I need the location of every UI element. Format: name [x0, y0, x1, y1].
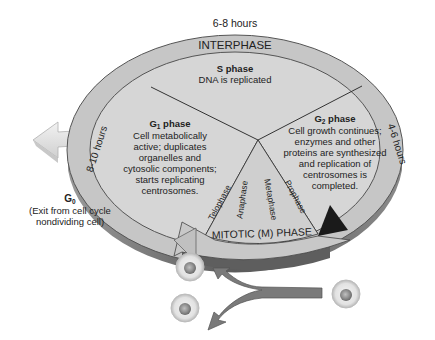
interphase-label: INTERPHASE [198, 39, 272, 51]
svg-text:starts replicating: starts replicating [135, 174, 204, 185]
daughter-cell-bottom [171, 294, 199, 322]
g2-phase-title: G2 phase [314, 113, 355, 125]
svg-text:organelles and: organelles and [139, 152, 201, 163]
svg-text:Cell growth continues;: Cell growth continues; [288, 125, 381, 136]
svg-text:completed.: completed. [312, 180, 358, 191]
daughter-cell-top [176, 253, 204, 281]
svg-text:cytosolic components;: cytosolic components; [123, 163, 216, 174]
g0-title: G0 [64, 193, 76, 205]
g0-desc-line2: nondividing cell) [36, 216, 104, 227]
parent-cell [332, 280, 360, 308]
s-phase-duration: 6-8 hours [213, 17, 257, 29]
svg-text:active; duplicates: active; duplicates [134, 141, 207, 152]
svg-text:Cell metabolically: Cell metabolically [133, 130, 207, 141]
svg-text:centrosomes.: centrosomes. [141, 185, 198, 196]
s-phase-title: S phase [217, 63, 253, 74]
svg-text:enzymes and other: enzymes and other [295, 136, 376, 147]
s-phase-desc: DNA is replicated [199, 74, 272, 85]
g0-desc-line1: (Exit from cell cycle [29, 205, 111, 216]
svg-text:proteins are synthesized: proteins are synthesized [284, 147, 387, 158]
g1-phase-title: G1 phase [149, 118, 190, 130]
cell-division-arrows [208, 268, 322, 330]
cell-cycle-diagram: 6-8 hours INTERPHASE S phase DNA is repl… [0, 0, 435, 340]
svg-text:centrosomes is: centrosomes is [303, 169, 367, 180]
svg-text:and replication of: and replication of [299, 158, 372, 169]
